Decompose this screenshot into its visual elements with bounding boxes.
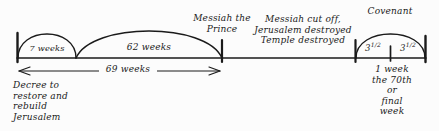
label-messiah-cut-off: Messiah cut off, Jerusalem destroyed Tem… bbox=[254, 14, 352, 46]
label-second-half-week: 31/2 bbox=[400, 41, 416, 53]
label-sixty-nine-weeks: 69 weeks bbox=[106, 64, 150, 75]
first-half-fraction: 1/2 bbox=[371, 41, 381, 48]
label-decree: Decree to restore and rebuild Jerusalem bbox=[13, 80, 68, 122]
label-covenant: Covenant bbox=[368, 6, 413, 17]
label-seven-weeks: 7 weeks bbox=[29, 44, 64, 54]
label-messiah-prince: Messiah the Prince bbox=[193, 13, 251, 34]
label-sixty-two-weeks: 62 weeks bbox=[127, 42, 171, 53]
label-first-half-week: 31/2 bbox=[365, 41, 381, 53]
second-half-fraction: 1/2 bbox=[406, 41, 416, 48]
label-final-week: 1 week the 70th or final week bbox=[369, 64, 416, 117]
timeline-diagram: 7 weeks 62 weeks 69 weeks Decree to rest… bbox=[0, 0, 439, 131]
